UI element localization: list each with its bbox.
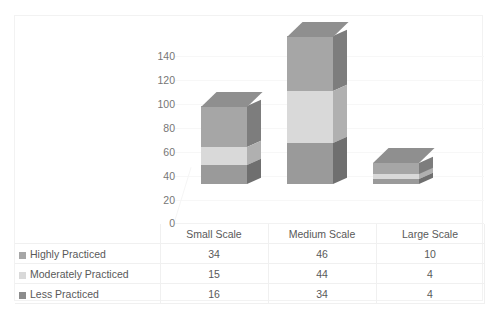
bar-segment-highly-practiced [373,163,419,175]
chart-container: 140 120 100 80 60 40 20 0 Small Scale Me… [14,15,483,301]
legend-swatch-icon [19,292,26,299]
column-header-medium-scale: Medium Scale [268,224,376,244]
segment-front-face [373,179,419,184]
cell-value: 10 [376,244,484,264]
cell-value: 34 [268,284,376,304]
y-axis: 140 120 100 80 60 40 20 0 [119,16,175,224]
y-tick-label: 100 [131,99,175,109]
data-table: Small Scale Medium Scale Large Scale Hig… [15,224,484,301]
bar-segment-highly-practiced [287,36,333,91]
cell-value: 4 [376,284,484,304]
clipped-header-text [0,0,498,11]
legend-label: Less Practiced [30,288,99,300]
table-row: Less Practiced 16 34 4 [15,284,484,304]
legend-label: Highly Practiced [30,248,106,260]
bar-segment-highly-practiced [201,106,247,147]
legend-item-less-practiced: Less Practiced [15,284,160,304]
segment-front-face [287,36,333,91]
bar-small-scale [201,106,247,184]
column-header-large-scale: Large Scale [376,224,484,244]
y-tick-label: 20 [131,195,175,205]
cell-value: 4 [376,264,484,284]
table-row: Highly Practiced 34 46 10 [15,244,484,264]
bar-medium-scale [287,36,333,184]
cell-value: 16 [160,284,268,304]
gridline-20 [175,200,484,201]
segment-side-face [333,137,347,184]
bar-segment-less-practiced [373,179,419,184]
y-tick-label: 40 [131,171,175,181]
segment-front-face [287,143,333,184]
table-row: Moderately Practiced 15 44 4 [15,264,484,284]
table-header-row: Small Scale Medium Scale Large Scale [15,224,484,244]
segment-side-face [247,100,261,147]
y-tick-label: 60 [131,147,175,157]
bar-segment-less-practiced [287,143,333,184]
segment-front-face [201,165,247,184]
bar-segment-moderately-practiced [287,91,333,143]
legend-item-moderately-practiced: Moderately Practiced [15,264,160,284]
segment-front-face [201,106,247,147]
column-header-small-scale: Small Scale [160,224,268,244]
legend-swatch-icon [19,272,26,279]
segment-side-face [333,85,347,144]
bar-segment-moderately-practiced [201,147,247,165]
segment-side-face [333,30,347,91]
y-tick-label: 120 [131,75,175,85]
cell-value: 15 [160,264,268,284]
segment-front-face [373,163,419,175]
cell-value: 44 [268,264,376,284]
cell-value: 46 [268,244,376,264]
y-tick-label: 140 [131,51,175,61]
bar-large-scale [373,163,419,184]
y-tick-label: 80 [131,123,175,133]
segment-front-face [287,91,333,143]
segment-front-face [201,147,247,165]
legend-swatch-icon [19,252,26,259]
table-corner-cell [15,224,160,244]
bar-segment-less-practiced [201,165,247,184]
legend-item-highly-practiced: Highly Practiced [15,244,160,264]
cell-value: 34 [160,244,268,264]
plot-area: 140 120 100 80 60 40 20 0 [15,16,484,224]
legend-label: Moderately Practiced [30,268,129,280]
